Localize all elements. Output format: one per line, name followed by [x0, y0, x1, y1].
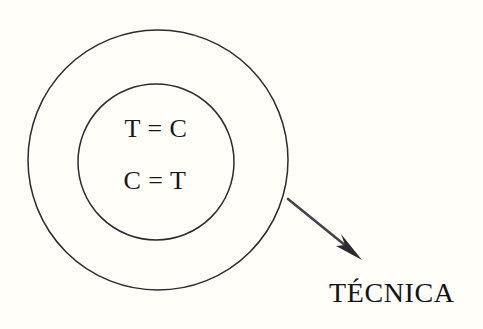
pointer-arrow-head: [336, 234, 362, 260]
outer-circle: [28, 30, 288, 290]
diagram-canvas: T = C C = T TÉCNICA: [0, 0, 483, 329]
inner-circle: [78, 84, 234, 240]
equation-line-2: C = T: [0, 166, 310, 196]
equation-line-1: T = C: [0, 114, 312, 144]
technique-label: TÉCNICA: [329, 277, 455, 309]
pointer-arrow-shaft: [288, 199, 351, 250]
